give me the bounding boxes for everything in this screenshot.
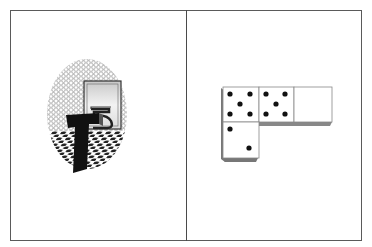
domino-tile-top-middle (259, 87, 294, 122)
right-panel: Three domino squares in an L-shape (187, 11, 361, 240)
emblem-icon (11, 11, 186, 240)
domino-tile-top-left (223, 87, 259, 122)
left-panel: Oval emblem with hexagonal mesh top and … (11, 11, 186, 240)
domino-tile-top-right (294, 87, 332, 122)
dominoes-icon (187, 11, 361, 240)
domino-tile-bottom-left (223, 122, 259, 158)
